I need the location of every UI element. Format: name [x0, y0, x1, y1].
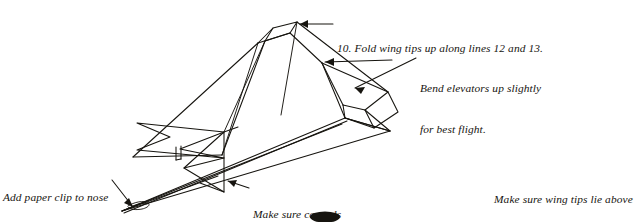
leader-canards[interactable] — [228, 180, 249, 188]
left-wing — [133, 41, 265, 157]
canards-note: Make sure canards are level or slightly … — [253, 181, 375, 222]
bend-elevators-line-1: Bend elevators up slightly — [420, 82, 541, 96]
diagram-page: 10. Fold wing tips up along lines 12 and… — [0, 0, 636, 222]
canards-line-1: Make sure canards — [253, 208, 375, 222]
wing-tips-y-line-1: Make sure wing tips lie above — [494, 193, 636, 207]
canards — [137, 123, 238, 192]
paper-clip-note: Add paper clip to nose for more stable f… — [3, 164, 108, 222]
fold-wing-tips-line-1: 10. Fold wing tips up along lines 12 and… — [337, 42, 543, 56]
left-wing-tip-fold — [258, 22, 297, 43]
bend-elevators-note: Bend elevators up slightly for best flig… — [420, 55, 541, 164]
right-wing-tip-fold — [343, 92, 398, 128]
wing-tips-y-note: Make sure wing tips lie above airplane b… — [494, 166, 636, 222]
leader-fold-wing-tips[interactable] — [300, 20, 333, 28]
paper-clip-line-1: Add paper clip to nose — [3, 191, 108, 205]
leader-paper-clip[interactable] — [112, 180, 133, 207]
bend-elevators-line-2: for best flight. — [420, 123, 541, 137]
